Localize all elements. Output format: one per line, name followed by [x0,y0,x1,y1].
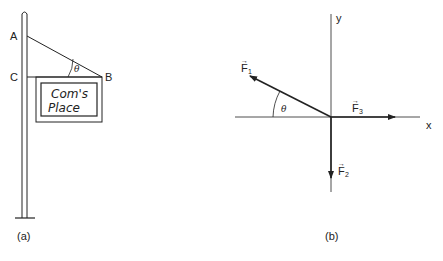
force-vector-f1 [250,76,331,117]
sign-text-line2: Place [48,101,80,115]
x-axis-label: x [426,119,432,131]
sign-text-line1: Com's [51,87,88,101]
caption-a: (a) [17,230,30,242]
y-axis-label: y [336,12,342,24]
cable-ab [27,36,102,77]
figure-canvas: θ Com's Place A C B (a) y x θ F 1 [0,0,443,261]
angle-arc-b [273,91,280,117]
point-label-b: B [105,71,112,83]
caption-b: (b) [325,230,338,242]
angle-arc-a [68,59,73,77]
svg-text:3: 3 [359,108,363,115]
pole [15,12,35,218]
svg-text:→: → [352,97,359,104]
theta-label-a: θ [74,64,80,74]
svg-text:→: → [241,57,248,64]
svg-text:1: 1 [248,68,252,75]
svg-text:→: → [338,160,345,167]
label-f2: F 2 → [338,160,349,178]
theta-label-b: θ [281,104,287,114]
label-f1: F 1 → [241,57,252,75]
svg-text:2: 2 [345,171,349,178]
point-label-a: A [10,30,18,42]
figure-b-force-diagram: y x θ F 1 → F 3 → F 2 → (b) [235,12,432,242]
point-label-c: C [10,71,18,83]
label-f3: F 3 → [352,97,363,115]
sign-board: Com's Place [36,77,102,122]
figure-a-sign-diagram: θ Com's Place A C B (a) [10,12,112,242]
